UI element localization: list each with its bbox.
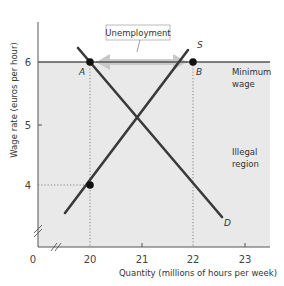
illegal-region-label-2: region <box>232 159 259 169</box>
point-b <box>189 58 197 66</box>
y-tick-4: 4 <box>25 180 31 191</box>
y-tick-6: 6 <box>25 57 31 68</box>
point-a <box>86 58 94 66</box>
y-axis-title: Wage rate (euros per hour) <box>9 42 19 158</box>
point-a-label: A <box>78 67 85 77</box>
x-tick-20: 20 <box>84 254 97 265</box>
minimum-wage-label-2: wage <box>232 79 255 89</box>
supply-label: S <box>197 40 203 50</box>
x-tick-22: 22 <box>187 254 200 265</box>
x-tick-23: 23 <box>239 254 252 265</box>
x-tick-21: 21 <box>136 254 149 265</box>
point-equilibrium-low <box>86 181 94 189</box>
x-axis-title: Quantity (millions of hours per week) <box>119 268 277 278</box>
y-tick-5: 5 <box>25 120 31 131</box>
unemployment-label: Unemployment <box>105 28 171 38</box>
demand-label: D <box>224 218 231 228</box>
labor-market-chart: Unemployment 6 5 4 0 20 21 22 23 Quantit… <box>0 0 284 286</box>
minimum-wage-label-1: Minimum <box>232 67 271 77</box>
illegal-region-label-1: Illegal <box>232 147 257 157</box>
origin-label: 0 <box>30 254 36 265</box>
point-b-label: B <box>196 67 202 77</box>
unemployment-label-box: Unemployment <box>105 25 171 52</box>
